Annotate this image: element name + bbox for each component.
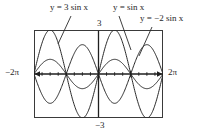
y-axis-top-label: 3 [97, 18, 102, 28]
sine-graph-figure: y = 3 sin x y = sin x y = −2 sin x 3 −3 … [0, 0, 206, 132]
x-axis-left-label: −2π [5, 67, 19, 77]
leader-line-neg2sinx [139, 27, 152, 56]
annotation-sinx: y = sin x [113, 2, 144, 12]
annotation-neg2sinx: y = −2 sin x [140, 13, 183, 23]
x-axis-right-label: 2π [168, 67, 177, 77]
leader-line-sinx [119, 16, 131, 50]
annotation-3sinx: y = 3 sin x [50, 2, 88, 12]
y-axis-bottom-label: −3 [95, 120, 105, 130]
